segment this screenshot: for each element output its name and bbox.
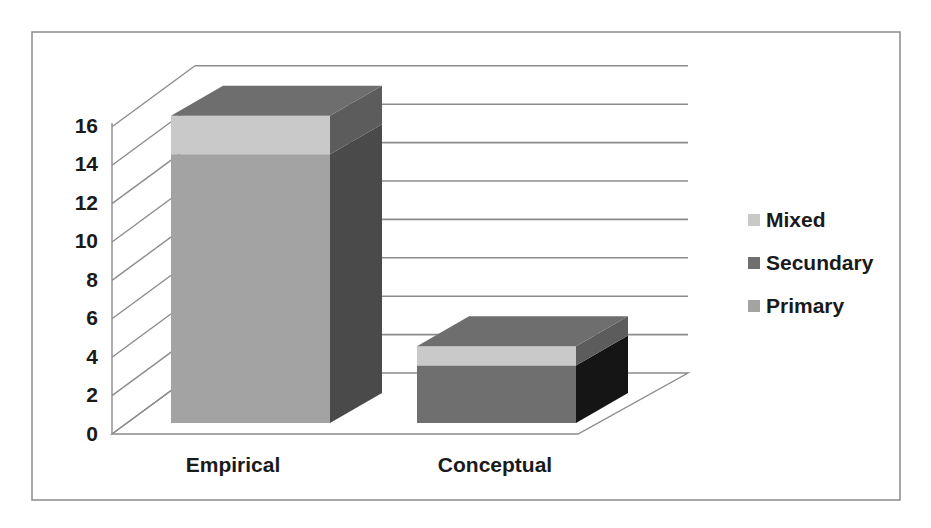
legend-item-secundary: Secundary [748, 251, 874, 274]
y-tick-label: 12 [75, 191, 98, 214]
legend-label: Mixed [766, 208, 826, 231]
legend-label: Primary [766, 294, 845, 317]
legend-swatch-mixed [748, 214, 760, 226]
stacked-bar-chart: 0 2 4 6 8 10 12 14 16 Empirical Conceptu… [0, 0, 931, 528]
x-category-label-conceptual: Conceptual [438, 453, 552, 476]
bar-segment-primary [171, 154, 330, 423]
y-tick-label: 2 [86, 383, 98, 406]
y-tick-label: 16 [75, 114, 98, 137]
legend-label: Secundary [766, 251, 874, 274]
bar-segment-mixed [171, 116, 330, 154]
bar-empirical [171, 86, 382, 423]
bar-segment-mixed [417, 346, 576, 365]
y-tick-label: 8 [86, 268, 98, 291]
legend-swatch-primary [748, 300, 760, 312]
bar-segment-side-primary [330, 124, 382, 423]
y-tick-label: 14 [75, 152, 99, 175]
bar-conceptual [417, 316, 628, 423]
y-tick-label: 4 [86, 345, 98, 368]
x-category-label-empirical: Empirical [186, 453, 281, 476]
y-tick-label: 6 [86, 306, 98, 329]
legend-swatch-secundary [748, 257, 760, 269]
y-tick-label: 10 [75, 229, 98, 252]
y-tick-label: 0 [86, 422, 98, 445]
bar-segment-secundary [417, 365, 576, 423]
